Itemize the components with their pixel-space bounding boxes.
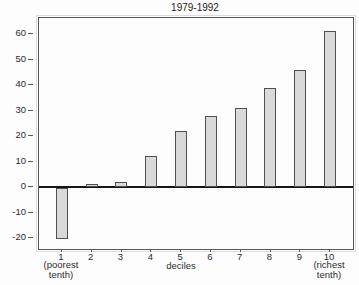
bar	[175, 131, 187, 187]
y-tick-label: 10	[0, 155, 26, 167]
plot-area	[38, 17, 354, 250]
x-tick-label: 3	[106, 251, 136, 262]
bar-column	[136, 18, 166, 249]
y-tick-label: -20	[0, 231, 26, 243]
x-tick-label: 7	[225, 251, 255, 262]
y-tick	[28, 84, 33, 85]
bar	[235, 108, 247, 187]
y-tick	[28, 135, 33, 136]
bar-column	[285, 18, 315, 249]
y-tick-label: 60	[0, 27, 26, 39]
y-tick-label: 0	[0, 180, 26, 192]
y-tick	[28, 237, 33, 238]
poorest-tenth-note: (poorest tenth)	[30, 260, 92, 280]
y-tick-label: 50	[0, 53, 26, 65]
bar	[115, 182, 127, 187]
bar	[205, 116, 217, 187]
bar-column	[226, 18, 256, 249]
bar	[86, 184, 98, 187]
bar	[145, 156, 157, 187]
bar-column	[315, 18, 345, 249]
y-tick-label: 40	[0, 78, 26, 90]
y-tick	[28, 212, 33, 213]
bar-column	[77, 18, 107, 249]
bar-column	[107, 18, 137, 249]
bar-chart: 1979-1992 6050403020100-10-20 1234567891…	[0, 0, 359, 285]
y-tick	[28, 186, 33, 187]
y-tick-label: -10	[0, 206, 26, 218]
y-tick	[28, 110, 33, 111]
bar	[294, 70, 306, 187]
chart-title: 1979-1992	[38, 1, 352, 15]
bar	[264, 88, 276, 187]
x-axis-title: deciles	[141, 260, 221, 271]
y-tick	[28, 59, 33, 60]
y-tick-label: 30	[0, 104, 26, 116]
bar-column	[166, 18, 196, 249]
richest-tenth-note: (richest tenth)	[298, 260, 359, 280]
y-tick-label: 20	[0, 129, 26, 141]
bar-column	[47, 18, 77, 249]
bars-row	[47, 18, 345, 249]
bar-column	[256, 18, 286, 249]
bar-column	[196, 18, 226, 249]
bar	[324, 31, 336, 187]
bar	[56, 188, 68, 239]
x-tick-label: 8	[255, 251, 285, 262]
y-tick	[28, 161, 33, 162]
y-tick	[28, 33, 33, 34]
